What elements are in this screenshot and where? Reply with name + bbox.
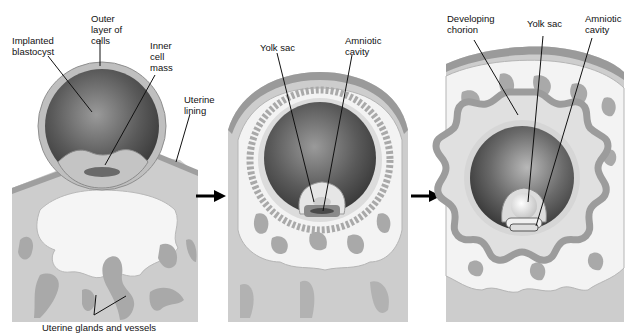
panel-stage-3 (436, 36, 624, 322)
label-uterine-glands-and-vessels: Uterine glands and vessels (42, 322, 156, 333)
amniotic-cavity (510, 224, 538, 231)
arrow-stage-1-to-2 (196, 190, 226, 202)
diagram-artwork (0, 0, 637, 336)
label-yolk-sac-stage-3: Yolk sac (527, 18, 562, 29)
panel-stage-1 (12, 40, 198, 322)
panel-stage-2 (228, 53, 408, 322)
label-uterine-lining: Uterine lining (184, 94, 215, 116)
label-inner-cell-mass: Inner cell mass (150, 40, 173, 73)
label-yolk-sac-stage-2: Yolk sac (260, 42, 295, 53)
label-outer-layer-of-cells: Outer layer of cells (91, 13, 122, 46)
yolk-sac (511, 193, 537, 219)
amniotic-cavity (310, 208, 334, 214)
label-developing-chorion: Developing chorion (447, 13, 495, 35)
label-amniotic-cavity-stage-2: Amniotic cavity (345, 35, 381, 57)
label-implanted-blastocyst: Implanted blastocyst (12, 35, 54, 57)
label-amniotic-cavity-stage-3: Amniotic cavity (585, 13, 621, 35)
